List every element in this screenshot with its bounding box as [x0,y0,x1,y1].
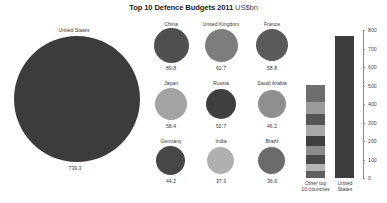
bubble-russia [206,89,236,119]
bubble-france [256,29,288,61]
bubble-value-united-states: 739.3 [55,165,95,171]
bar-segment-india [306,164,325,171]
bubble-value-russia: 52.7 [200,123,242,129]
chart-canvas: Top 10 Defence Budgets 2011 US$bn United… [0,0,387,203]
bubble-japan [155,88,187,120]
bar-segment-brazil [306,171,325,178]
bubble-value-china: 89.8 [150,65,192,71]
bar-segment-germany [306,155,325,164]
bubble-germany [156,146,185,175]
bubble-united-kingdom [205,29,238,62]
bar-segment-china [306,85,325,102]
bubble-china [154,28,189,63]
bubble-label-brazil: Brazil [250,138,294,144]
y-axis-tick-700 [363,49,365,50]
y-axis-label-300: 300 [368,120,377,126]
bar-segment-japan [306,125,325,136]
chart-title-sub: US$bn [235,3,258,12]
bubble-united-states [14,36,140,162]
bubble-value-brazil: 36.6 [250,178,294,184]
y-axis-tick-200 [363,141,365,142]
y-axis-tick-600 [363,67,365,68]
y-axis-tick-800 [363,30,365,31]
y-axis-label-0: 0 [368,175,371,181]
bubble-india [207,147,234,174]
bubble-value-germany: 44.2 [150,178,192,184]
y-axis-tick-100 [363,160,365,161]
bubble-label-united-states: United States [42,27,106,33]
bubble-value-india: 37.3 [200,178,242,184]
y-axis-label-400: 400 [368,101,377,107]
y-axis-tick-400 [363,104,365,105]
bubble-value-united-kingdom: 62.7 [194,65,248,71]
y-axis-label-600: 600 [368,64,377,70]
stacked-bar-other-countries [306,85,325,178]
bubble-value-france: 58.8 [250,65,294,71]
bubble-label-india: India [200,138,242,144]
bar-segment-france [306,114,325,125]
bubble-label-germany: Germany [150,138,192,144]
bar-segment-saudi-arabia [306,146,325,155]
bubble-label-saudi-arabia: Saudi Arabia [248,80,296,86]
bar-caption-united-states: United States [328,180,362,193]
bubble-label-china: China [150,21,192,27]
bubble-saudi-arabia [258,90,286,118]
bar-united-states [335,36,354,178]
bubble-label-united-kingdom: United Kingdom [194,21,248,27]
bubble-brazil [258,147,285,174]
bubble-value-japan: 58.4 [150,123,192,129]
chart-title: Top 10 Defence Budgets 2011 US$bn [0,3,387,12]
bubble-label-france: France [250,21,294,27]
y-axis-label-500: 500 [368,83,377,89]
y-axis-label-200: 200 [368,138,377,144]
chart-title-main: Top 10 Defence Budgets 2011 [129,3,233,12]
y-axis-tick-500 [363,86,365,87]
bubble-label-russia: Russia [200,80,242,86]
y-axis-label-100: 100 [368,157,377,163]
bar-segment-united-kingdom [306,102,325,114]
y-axis-tick-0 [363,178,365,179]
bar-segment-russia [306,136,325,146]
y-axis-tick-300 [363,123,365,124]
y-axis-label-800: 800 [368,27,377,33]
bubble-label-japan: Japan [150,80,192,86]
bubble-value-saudi-arabia: 46.2 [248,123,296,129]
y-axis-label-700: 700 [368,46,377,52]
